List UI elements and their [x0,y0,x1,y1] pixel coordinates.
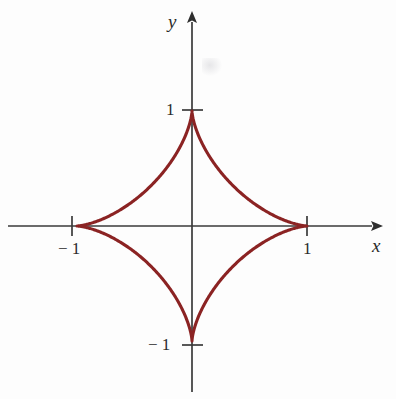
astroid-graph-figure: y x 1 − 1 − 1 1 [0,0,396,399]
x-tick-label-negative-one: − 1 [58,240,80,257]
y-tick-label-negative-one: − 1 [148,336,170,353]
x-tick-label-positive-one: 1 [303,240,312,257]
x-axis-label: x [372,236,380,255]
y-axis-label: y [168,12,176,31]
plot-area [0,0,396,399]
y-tick-label-positive-one: 1 [166,101,175,118]
